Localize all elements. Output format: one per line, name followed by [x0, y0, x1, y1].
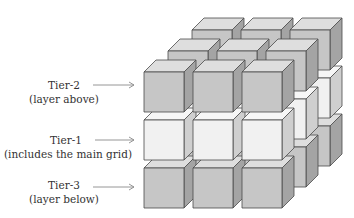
cube-tier-2 — [242, 60, 294, 112]
cube-tier-3 — [242, 156, 294, 208]
cube-tier-1 — [193, 108, 245, 160]
cube-front-face — [144, 168, 184, 208]
cube-front-face — [144, 72, 184, 112]
cube-front-face — [144, 120, 184, 160]
label-tier-3: Tier-3 (layer below) — [22, 178, 106, 206]
tier-3-subtitle: (layer below) — [22, 192, 106, 206]
tier-1-subtitle: (includes the main grid) — [4, 147, 128, 161]
cube-tier-3 — [193, 156, 245, 208]
cube-tier-2 — [144, 60, 196, 112]
tier-3-title: Tier-3 — [22, 178, 106, 192]
tier-2-subtitle: (layer above) — [22, 92, 106, 106]
tier-1-title: Tier-1 — [4, 133, 128, 147]
cube-front-face — [193, 72, 233, 112]
label-tier-1: Tier-1 (includes the main grid) — [4, 133, 128, 161]
cube-tier-3 — [144, 156, 196, 208]
cube-front-face — [193, 120, 233, 160]
tier-2-title: Tier-2 — [22, 78, 106, 92]
cube-grid — [144, 18, 342, 208]
cube-front-face — [242, 168, 282, 208]
cube-tier-1 — [144, 108, 196, 160]
label-tier-2: Tier-2 (layer above) — [22, 78, 106, 106]
cube-front-face — [242, 120, 282, 160]
cube-tier-1 — [242, 108, 294, 160]
cube-front-face — [193, 168, 233, 208]
cube-front-face — [242, 72, 282, 112]
cube-tier-2 — [193, 60, 245, 112]
